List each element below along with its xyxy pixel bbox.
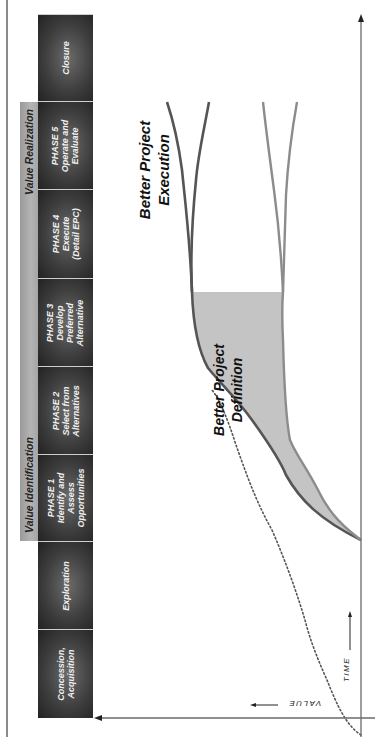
- better-project-definition-label: Better Project Definition: [210, 320, 270, 460]
- curve-light-branch-b: [263, 102, 283, 292]
- time-direction-arrowhead: [348, 611, 352, 617]
- curve-light-branch-a: [283, 102, 297, 292]
- better-project-execution-label: Better Project Execution: [135, 85, 195, 255]
- time-axis-arrowhead: [358, 14, 364, 22]
- value-direction-arrowhead: [250, 703, 256, 707]
- value-axis-label: VALUE: [288, 699, 321, 708]
- value-axis-arrowhead: [94, 715, 102, 721]
- time-axis-label: TIME: [342, 657, 351, 682]
